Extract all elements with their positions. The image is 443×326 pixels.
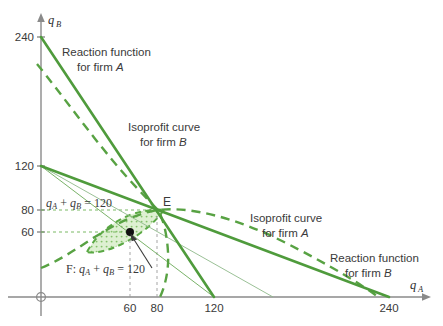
y-axis-arrowhead — [37, 13, 45, 22]
lens-region — [87, 209, 164, 252]
annotation-isoprofit-a: Isoprofit curve for firm A — [250, 212, 322, 239]
y-tick-60: 60 — [21, 226, 34, 238]
reaction-b-label-line1: Reaction function — [330, 252, 419, 264]
x-axis-tick-labels: 60 80 120 240 — [124, 302, 399, 314]
isoprofit-b-label-line1: Isoprofit curve — [128, 121, 200, 133]
reaction-a-label-line2: for firm A — [77, 61, 124, 73]
annotation-point-F: F: qA + qB = 120 — [66, 262, 145, 277]
x-axis-name: q — [410, 278, 416, 292]
point-F-dot — [126, 228, 134, 236]
reaction-b-line — [41, 166, 389, 297]
total-output-equation: qA + qB = 120 — [46, 196, 112, 211]
cournot-duopoly-figure: q B q A 240 120 80 60 60 80 120 240 — [0, 0, 443, 326]
isoprofit-a-label-line1: Isoprofit curve — [250, 212, 322, 224]
y-axis-name: q — [48, 13, 54, 27]
reaction-a-line — [41, 37, 214, 297]
equilibrium-point-E: E — [163, 195, 171, 209]
y-tick-240: 240 — [15, 31, 34, 43]
annotation-reaction-a: Reaction function for firm A — [62, 46, 151, 73]
x-tick-240: 240 — [379, 302, 398, 314]
reaction-function-firm-a — [41, 37, 214, 297]
equilibrium-label-E: E — [163, 195, 171, 209]
annotation-isoprofit-b: Isoprofit curve for firm B — [128, 121, 200, 148]
point-F-equation: F: qA + qB = 120 — [66, 262, 145, 277]
reaction-a-label-line1: Reaction function — [62, 46, 151, 58]
reaction-function-firm-b — [41, 166, 389, 297]
y-tick-80: 80 — [21, 204, 34, 216]
x-axis-name-subscript: A — [417, 284, 424, 294]
x-tick-120: 120 — [204, 302, 223, 314]
x-tick-80: 80 — [151, 302, 164, 314]
isoprofit-b-label-line2: for firm B — [140, 136, 187, 148]
y-axis-name-subscript: B — [56, 19, 61, 29]
isoprofit-a-label-line2: for firm A — [262, 227, 309, 239]
annotation-total-output-line: qA + qB = 120 — [46, 196, 112, 211]
y-tick-120: 120 — [15, 160, 34, 172]
reaction-b-label-line2: for firm B — [345, 267, 392, 279]
figure-canvas: q B q A 240 120 80 60 60 80 120 240 — [0, 0, 443, 326]
x-axis-arrowhead — [422, 293, 431, 301]
x-tick-60: 60 — [124, 302, 137, 314]
